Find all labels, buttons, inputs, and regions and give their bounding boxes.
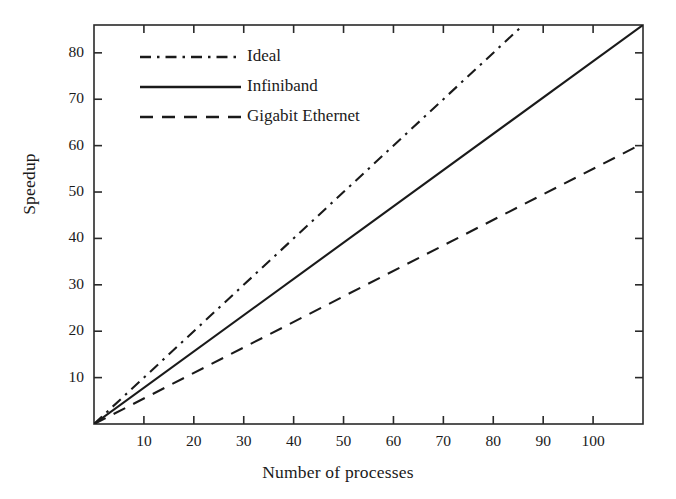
- x-tick-label-40: 40: [272, 432, 316, 450]
- legend-label-infiniband: Infiniband: [247, 76, 318, 96]
- y-tick-label-10: 10: [38, 368, 84, 386]
- x-axis-title: Number of processes: [0, 462, 676, 483]
- speedup-chart-figure: 1020304050607080 102030405060708090100 I…: [0, 0, 676, 499]
- x-tick-label-10: 10: [122, 432, 166, 450]
- y-tick-label-70: 70: [38, 89, 84, 107]
- y-tick-label-30: 30: [38, 275, 84, 293]
- plot-canvas: [0, 0, 676, 499]
- y-tick-label-20: 20: [38, 321, 84, 339]
- x-tick-label-100: 100: [571, 432, 615, 450]
- legend-label-ideal: Ideal: [247, 46, 281, 66]
- y-axis-title: Speedup: [19, 129, 40, 239]
- x-tick-label-60: 60: [371, 432, 415, 450]
- x-tick-label-50: 50: [322, 432, 366, 450]
- legend-label-gigabit-ethernet: Gigabit Ethernet: [247, 106, 360, 126]
- y-tick-label-80: 80: [38, 43, 84, 61]
- x-tick-label-70: 70: [421, 432, 465, 450]
- x-tick-label-90: 90: [521, 432, 565, 450]
- y-axis-title-wrapper: Speedup: [19, 129, 47, 239]
- x-tick-label-20: 20: [172, 432, 216, 450]
- x-tick-label-30: 30: [222, 432, 266, 450]
- x-tick-label-80: 80: [471, 432, 515, 450]
